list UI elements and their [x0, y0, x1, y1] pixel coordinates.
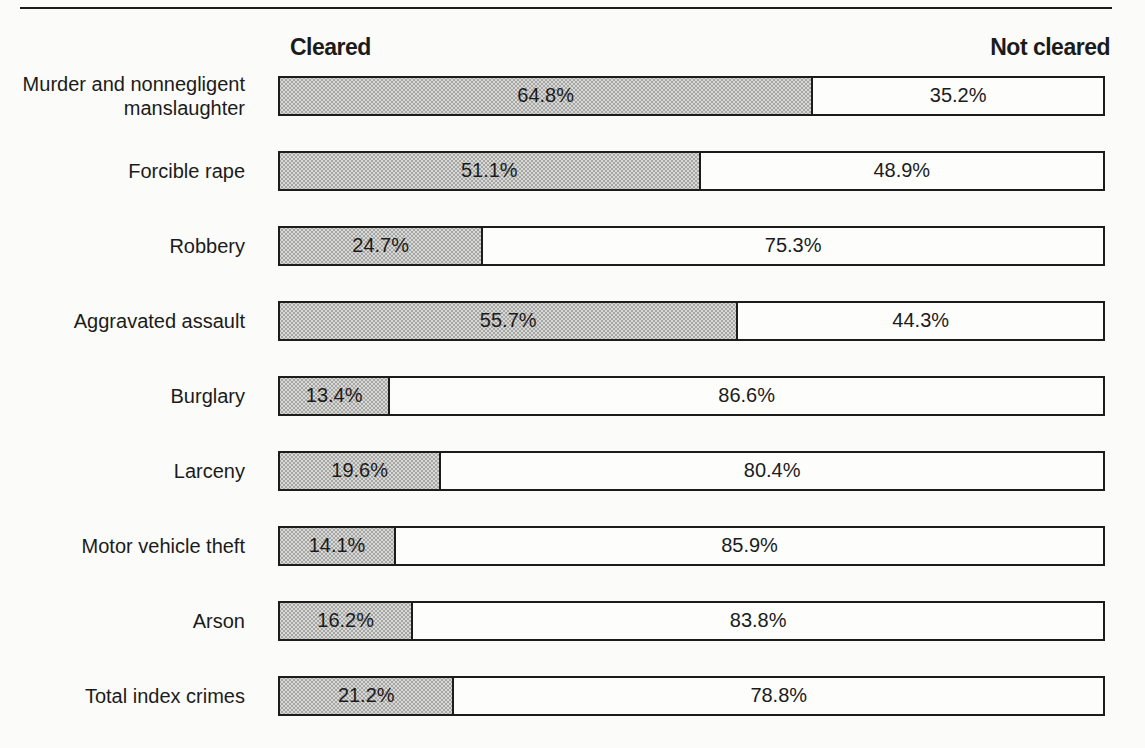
cleared-value-label: 24.7%: [352, 234, 409, 257]
not-cleared-segment: 83.8%: [413, 603, 1103, 639]
cleared-segment: 13.4%: [280, 378, 390, 414]
bar-row: Murder and nonnegligent manslaughter 64.…: [0, 58, 1105, 133]
stacked-bar: 55.7% 44.3%: [278, 301, 1105, 341]
bar-row: Burglary 13.4% 86.6%: [0, 358, 1105, 433]
category-label: Burglary: [0, 384, 278, 408]
stacked-bar: 14.1% 85.9%: [278, 526, 1105, 566]
not-cleared-value-label: 78.8%: [750, 684, 807, 707]
stacked-bar: 21.2% 78.8%: [278, 676, 1105, 716]
cleared-segment: 24.7%: [280, 228, 483, 264]
category-label: Total index crimes: [0, 684, 278, 708]
category-label: Aggravated assault: [0, 309, 278, 333]
category-label: Forcible rape: [0, 159, 278, 183]
cleared-value-label: 14.1%: [309, 534, 366, 557]
cleared-segment: 51.1%: [280, 153, 701, 189]
top-rule: [20, 7, 1112, 9]
cleared-segment: 21.2%: [280, 678, 454, 714]
stacked-bar: 16.2% 83.8%: [278, 601, 1105, 641]
column-headers: Cleared Not cleared: [0, 34, 1145, 60]
not-cleared-column-header: Not cleared: [990, 34, 1110, 61]
stacked-bar: 51.1% 48.9%: [278, 151, 1105, 191]
not-cleared-value-label: 44.3%: [892, 309, 949, 332]
cleared-segment: 16.2%: [280, 603, 413, 639]
stacked-bar: 24.7% 75.3%: [278, 226, 1105, 266]
category-label: Larceny: [0, 459, 278, 483]
bar-row: Total index crimes 21.2% 78.8%: [0, 658, 1105, 733]
stacked-bar: 19.6% 80.4%: [278, 451, 1105, 491]
not-cleared-segment: 35.2%: [813, 78, 1103, 114]
cleared-value-label: 21.2%: [338, 684, 395, 707]
cleared-column-header: Cleared: [290, 34, 371, 61]
cleared-segment: 64.8%: [280, 78, 813, 114]
not-cleared-value-label: 86.6%: [718, 384, 775, 407]
clearance-rate-figure: Cleared Not cleared Murder and nonneglig…: [0, 0, 1145, 748]
cleared-value-label: 13.4%: [306, 384, 363, 407]
not-cleared-segment: 86.6%: [390, 378, 1103, 414]
cleared-value-label: 64.8%: [517, 84, 574, 107]
category-label: Motor vehicle theft: [0, 534, 278, 558]
cleared-segment: 14.1%: [280, 528, 396, 564]
cleared-value-label: 51.1%: [461, 159, 518, 182]
not-cleared-value-label: 83.8%: [730, 609, 787, 632]
not-cleared-segment: 75.3%: [483, 228, 1103, 264]
cleared-segment: 19.6%: [280, 453, 441, 489]
bar-row: Forcible rape 51.1% 48.9%: [0, 133, 1105, 208]
not-cleared-segment: 78.8%: [454, 678, 1103, 714]
bar-row: Aggravated assault 55.7% 44.3%: [0, 283, 1105, 358]
not-cleared-segment: 85.9%: [396, 528, 1103, 564]
cleared-segment: 55.7%: [280, 303, 738, 339]
cleared-value-label: 55.7%: [480, 309, 537, 332]
bar-rows: Murder and nonnegligent manslaughter 64.…: [0, 58, 1145, 733]
bar-row: Motor vehicle theft 14.1% 85.9%: [0, 508, 1105, 583]
category-label: Murder and nonnegligent manslaughter: [0, 72, 278, 120]
category-label: Arson: [0, 609, 278, 633]
not-cleared-value-label: 35.2%: [930, 84, 987, 107]
bar-row: Larceny 19.6% 80.4%: [0, 433, 1105, 508]
stacked-bar: 64.8% 35.2%: [278, 76, 1105, 116]
not-cleared-segment: 80.4%: [441, 453, 1103, 489]
stacked-bar: 13.4% 86.6%: [278, 376, 1105, 416]
bar-row: Arson 16.2% 83.8%: [0, 583, 1105, 658]
cleared-value-label: 19.6%: [331, 459, 388, 482]
cleared-value-label: 16.2%: [317, 609, 374, 632]
not-cleared-value-label: 48.9%: [873, 159, 930, 182]
category-label: Robbery: [0, 234, 278, 258]
not-cleared-value-label: 85.9%: [721, 534, 778, 557]
not-cleared-value-label: 75.3%: [765, 234, 822, 257]
not-cleared-segment: 48.9%: [701, 153, 1103, 189]
not-cleared-segment: 44.3%: [738, 303, 1103, 339]
not-cleared-value-label: 80.4%: [744, 459, 801, 482]
bar-row: Robbery 24.7% 75.3%: [0, 208, 1105, 283]
